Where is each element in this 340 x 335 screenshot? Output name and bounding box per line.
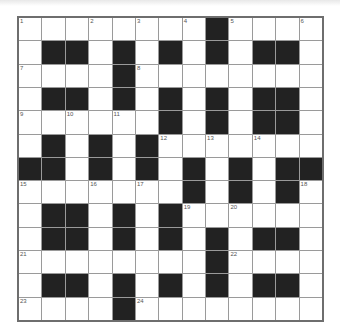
crossword-cell[interactable]	[42, 18, 64, 40]
crossword-cell[interactable]	[300, 228, 322, 250]
crossword-cell[interactable]: 13	[206, 135, 228, 157]
crossword-cell[interactable]	[89, 111, 111, 133]
crossword-cell[interactable]: 9	[19, 111, 41, 133]
crossword-cell[interactable]	[206, 298, 228, 320]
crossword-cell[interactable]	[89, 274, 111, 296]
crossword-cell[interactable]	[66, 135, 88, 157]
crossword-cell[interactable]	[276, 18, 298, 40]
crossword-cell[interactable]	[206, 158, 228, 180]
crossword-cell[interactable]	[206, 181, 228, 203]
crossword-cell[interactable]: 10	[66, 111, 88, 133]
crossword-cell[interactable]	[89, 228, 111, 250]
crossword-cell[interactable]	[42, 65, 64, 87]
crossword-cell[interactable]	[276, 135, 298, 157]
crossword-cell[interactable]	[113, 135, 135, 157]
crossword-cell[interactable]	[66, 65, 88, 87]
crossword-cell[interactable]: 2	[89, 18, 111, 40]
crossword-cell[interactable]: 24	[136, 298, 158, 320]
crossword-cell[interactable]	[206, 65, 228, 87]
crossword-cell[interactable]	[113, 181, 135, 203]
crossword-cell[interactable]	[66, 18, 88, 40]
crossword-cell[interactable]	[89, 251, 111, 273]
crossword-cell[interactable]	[253, 251, 275, 273]
crossword-cell[interactable]: 18	[300, 181, 322, 203]
crossword-cell[interactable]	[229, 274, 251, 296]
crossword-cell[interactable]: 4	[183, 18, 205, 40]
crossword-cell[interactable]	[19, 228, 41, 250]
crossword-cell[interactable]	[276, 251, 298, 273]
crossword-cell[interactable]	[136, 228, 158, 250]
crossword-cell[interactable]	[183, 41, 205, 63]
crossword-cell[interactable]	[42, 298, 64, 320]
crossword-cell[interactable]	[229, 88, 251, 110]
crossword-cell[interactable]: 11	[113, 111, 135, 133]
crossword-cell[interactable]: 23	[19, 298, 41, 320]
crossword-cell[interactable]	[300, 111, 322, 133]
crossword-cell[interactable]	[276, 298, 298, 320]
crossword-cell[interactable]	[159, 158, 181, 180]
crossword-cell[interactable]	[183, 111, 205, 133]
crossword-cell[interactable]	[229, 298, 251, 320]
crossword-cell[interactable]	[300, 251, 322, 273]
crossword-cell[interactable]	[66, 251, 88, 273]
crossword-cell[interactable]	[19, 88, 41, 110]
crossword-cell[interactable]	[136, 251, 158, 273]
crossword-cell[interactable]	[229, 135, 251, 157]
crossword-cell[interactable]	[42, 251, 64, 273]
crossword-cell[interactable]: 7	[19, 65, 41, 87]
crossword-cell[interactable]	[113, 251, 135, 273]
crossword-cell[interactable]: 5	[229, 18, 251, 40]
crossword-cell[interactable]	[42, 111, 64, 133]
crossword-cell[interactable]	[19, 135, 41, 157]
crossword-cell[interactable]	[89, 204, 111, 226]
crossword-cell[interactable]	[159, 251, 181, 273]
crossword-cell[interactable]: 22	[229, 251, 251, 273]
crossword-cell[interactable]	[229, 228, 251, 250]
crossword-cell[interactable]: 12	[159, 135, 181, 157]
crossword-cell[interactable]	[66, 298, 88, 320]
crossword-cell[interactable]	[136, 204, 158, 226]
crossword-cell[interactable]	[113, 158, 135, 180]
crossword-cell[interactable]	[300, 135, 322, 157]
crossword-cell[interactable]	[229, 41, 251, 63]
crossword-cell[interactable]: 1	[19, 18, 41, 40]
crossword-cell[interactable]: 15	[19, 181, 41, 203]
crossword-cell[interactable]	[183, 65, 205, 87]
crossword-cell[interactable]	[183, 251, 205, 273]
crossword-cell[interactable]	[253, 158, 275, 180]
crossword-cell[interactable]: 20	[229, 204, 251, 226]
crossword-cell[interactable]	[276, 204, 298, 226]
crossword-cell[interactable]	[136, 88, 158, 110]
crossword-cell[interactable]	[66, 158, 88, 180]
crossword-cell[interactable]	[300, 41, 322, 63]
crossword-cell[interactable]	[159, 18, 181, 40]
crossword-cell[interactable]	[183, 228, 205, 250]
crossword-cell[interactable]	[253, 204, 275, 226]
crossword-cell[interactable]	[229, 111, 251, 133]
crossword-cell[interactable]	[136, 111, 158, 133]
crossword-cell[interactable]	[183, 135, 205, 157]
crossword-cell[interactable]	[42, 181, 64, 203]
crossword-cell[interactable]: 3	[136, 18, 158, 40]
crossword-cell[interactable]	[159, 181, 181, 203]
crossword-cell[interactable]	[183, 298, 205, 320]
crossword-cell[interactable]: 14	[253, 135, 275, 157]
crossword-cell[interactable]	[253, 298, 275, 320]
crossword-cell[interactable]	[113, 18, 135, 40]
crossword-cell[interactable]	[19, 41, 41, 63]
crossword-cell[interactable]	[136, 274, 158, 296]
crossword-cell[interactable]	[300, 274, 322, 296]
crossword-cell[interactable]	[19, 204, 41, 226]
crossword-cell[interactable]	[66, 181, 88, 203]
crossword-cell[interactable]: 19	[183, 204, 205, 226]
crossword-cell[interactable]	[159, 65, 181, 87]
crossword-cell[interactable]	[253, 18, 275, 40]
crossword-cell[interactable]	[300, 88, 322, 110]
crossword-cell[interactable]: 8	[136, 65, 158, 87]
crossword-cell[interactable]: 21	[19, 251, 41, 273]
crossword-cell[interactable]	[253, 65, 275, 87]
crossword-cell[interactable]	[229, 65, 251, 87]
crossword-cell[interactable]	[136, 41, 158, 63]
crossword-cell[interactable]	[276, 65, 298, 87]
crossword-cell[interactable]	[89, 88, 111, 110]
